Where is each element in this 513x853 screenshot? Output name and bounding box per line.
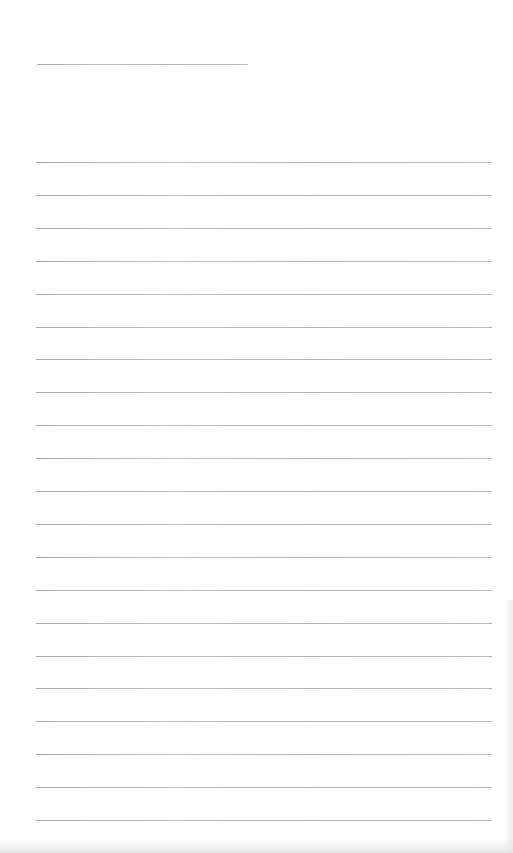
- page-bottom-shadow: [0, 839, 513, 853]
- ruled-line: [36, 623, 492, 624]
- ruled-line: [36, 425, 492, 426]
- ruled-line: [36, 656, 492, 657]
- ruled-line: [36, 491, 492, 492]
- ruled-line: [36, 590, 492, 591]
- ruled-line: [36, 195, 492, 196]
- ruled-line: [36, 392, 492, 393]
- page-edge-shadow: [505, 600, 513, 853]
- header-rule: [37, 64, 248, 65]
- ruled-line: [36, 261, 492, 262]
- ruled-line: [36, 787, 492, 788]
- ruled-line: [36, 688, 492, 689]
- ruled-line: [36, 754, 492, 755]
- ruled-line: [36, 228, 492, 229]
- ruled-line: [36, 721, 492, 722]
- ruled-line: [36, 162, 492, 163]
- lined-paper-page: [0, 0, 513, 853]
- ruled-line: [36, 557, 492, 558]
- ruled-line: [36, 359, 492, 360]
- ruled-line: [36, 458, 492, 459]
- ruled-line: [36, 294, 492, 295]
- ruled-line: [36, 327, 492, 328]
- ruled-line: [36, 524, 492, 525]
- ruled-line: [36, 820, 492, 821]
